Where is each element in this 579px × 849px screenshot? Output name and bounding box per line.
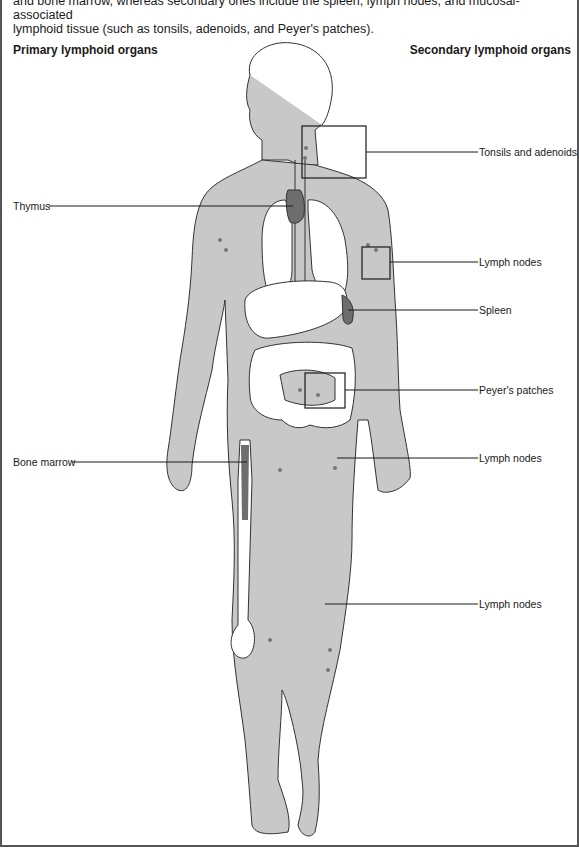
label-lymph-nodes-arm: Lymph nodes <box>479 256 542 268</box>
label-peyers-patches: Peyer's patches <box>479 384 553 396</box>
label-bone-marrow: Bone marrow <box>13 456 75 468</box>
thymus-organ <box>286 190 304 223</box>
label-thymus: Thymus <box>13 200 50 212</box>
label-lymph-nodes-leg: Lymph nodes <box>479 598 542 610</box>
label-lymph-nodes-groin: Lymph nodes <box>479 452 542 464</box>
bone-marrow-organ <box>241 445 249 520</box>
human-body-illustration <box>0 0 579 849</box>
label-spleen: Spleen <box>479 304 512 316</box>
label-tonsils-adenoids: Tonsils and adenoids <box>479 146 577 158</box>
body-silhouette <box>167 45 410 836</box>
